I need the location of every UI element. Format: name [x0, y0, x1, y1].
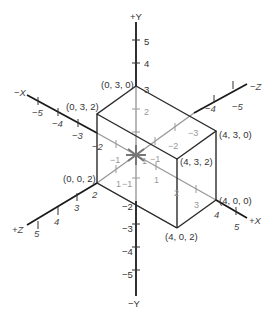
svg-text:4: 4: [54, 216, 59, 227]
svg-text:1: 1: [116, 179, 121, 189]
vertex-label-030: (0, 3, 0): [101, 79, 134, 90]
svg-text:−1: −1: [122, 179, 132, 189]
svg-text:−2: −2: [92, 141, 104, 152]
svg-text:2: 2: [144, 107, 149, 117]
svg-text:1: 1: [142, 156, 147, 166]
svg-text:4: 4: [144, 58, 149, 69]
vertex-label-002: (0, 0, 2): [63, 173, 96, 184]
label-neg-x: −X: [14, 87, 27, 98]
svg-text:5: 5: [34, 228, 40, 239]
svg-text:2: 2: [174, 188, 179, 198]
axis-labels: +Y −Y +X −X +Z −Z: [12, 11, 263, 309]
label-pos-x: +X: [249, 215, 262, 226]
svg-text:−5: −5: [122, 269, 133, 280]
svg-text:5: 5: [234, 221, 240, 232]
label-pos-z: +Z: [12, 224, 25, 235]
label-pos-y: +Y: [130, 11, 143, 22]
z-tick-labels: 1 2 3 4 5 −1 −2 −3 −4 −5: [34, 101, 244, 239]
svg-text:−1: −1: [110, 155, 120, 165]
svg-text:4: 4: [214, 209, 219, 220]
svg-text:3: 3: [144, 84, 149, 95]
vertex-label-402: (4, 0, 2): [165, 231, 198, 242]
svg-text:5: 5: [144, 36, 149, 47]
z-axis-positive: [27, 183, 97, 225]
svg-text:−4: −4: [52, 118, 63, 129]
svg-text:−3: −3: [188, 128, 198, 138]
svg-text:−1: −1: [150, 154, 160, 164]
svg-text:−5: −5: [32, 107, 44, 118]
3d-coordinate-box-diagram: +Y −Y +X −X +Z −Z 1 2 3 4 5 −1 −2 −3 −4 …: [0, 0, 270, 316]
svg-text:3: 3: [194, 200, 199, 210]
svg-text:−2: −2: [168, 141, 178, 151]
vertex-label-400: (4, 0, 0): [219, 195, 252, 206]
vertex-label-432: (4, 3, 2): [180, 156, 213, 167]
label-neg-y: −Y: [128, 298, 141, 309]
svg-text:2: 2: [91, 189, 98, 200]
label-neg-z: −Z: [250, 81, 263, 92]
svg-text:−4: −4: [122, 246, 133, 257]
svg-text:1: 1: [154, 175, 159, 185]
svg-text:−2: −2: [122, 201, 133, 212]
vertex-label-032: (0, 3, 2): [66, 101, 99, 112]
vertex-label-430: (4, 3, 0): [219, 129, 252, 140]
svg-text:3: 3: [74, 202, 80, 213]
svg-text:−4: −4: [205, 103, 216, 114]
svg-text:−5: −5: [232, 101, 244, 112]
svg-text:−3: −3: [122, 223, 133, 234]
svg-text:−3: −3: [72, 130, 84, 141]
